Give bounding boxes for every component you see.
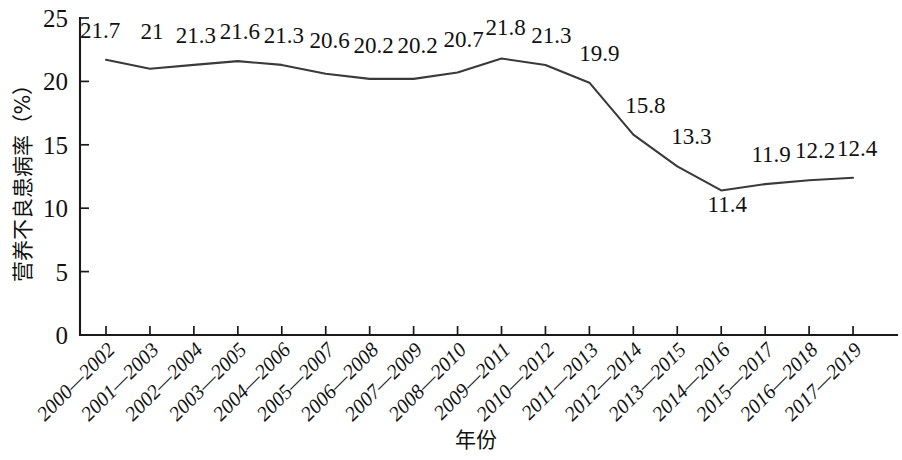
chart-container: 0510152025 21.72121.321.621.320.620.220.… <box>0 0 902 460</box>
y-tick-label: 20 <box>43 68 68 95</box>
value-label: 20.2 <box>354 33 394 58</box>
value-label: 21.6 <box>220 19 260 44</box>
value-label: 21.8 <box>485 15 525 40</box>
data-value-labels: 21.72121.321.621.320.620.220.220.721.821… <box>80 15 878 218</box>
x-axis-title: 年份 <box>455 428 497 452</box>
y-axis-title: 营养不良患病率（%） <box>11 74 35 283</box>
value-label: 15.8 <box>625 93 665 118</box>
series-path <box>106 59 853 191</box>
value-label: 21.7 <box>80 18 120 43</box>
value-label: 11.9 <box>751 142 790 167</box>
y-tick-label: 5 <box>56 259 69 286</box>
value-label: 20.7 <box>443 27 483 52</box>
value-label: 12.2 <box>795 138 835 163</box>
value-label: 13.3 <box>671 124 711 149</box>
value-label: 20.2 <box>397 33 437 58</box>
value-label: 11.4 <box>708 192 748 217</box>
value-label: 21.3 <box>176 23 216 48</box>
y-tick-label: 0 <box>56 322 69 349</box>
chart-axes <box>80 18 897 335</box>
y-tick-label: 15 <box>43 132 68 159</box>
value-label: 20.6 <box>310 28 350 53</box>
value-label: 12.4 <box>837 136 878 161</box>
y-tick-label: 10 <box>43 195 68 222</box>
y-tick-label: 25 <box>43 5 68 32</box>
x-axis-tick-labels: 2000—20022001—20032002—20042003—20052004… <box>32 338 865 425</box>
value-label: 21.3 <box>531 23 571 48</box>
value-label: 21 <box>140 19 163 44</box>
y-axis-ticks: 0510152025 <box>43 5 89 349</box>
value-label: 21.3 <box>264 23 304 48</box>
axis-lines <box>80 18 897 335</box>
x-axis-ticks <box>106 326 853 335</box>
value-label: 19.9 <box>579 41 619 66</box>
line-chart: 0510152025 21.72121.321.621.320.620.220.… <box>0 0 902 460</box>
data-series-line <box>106 59 853 191</box>
